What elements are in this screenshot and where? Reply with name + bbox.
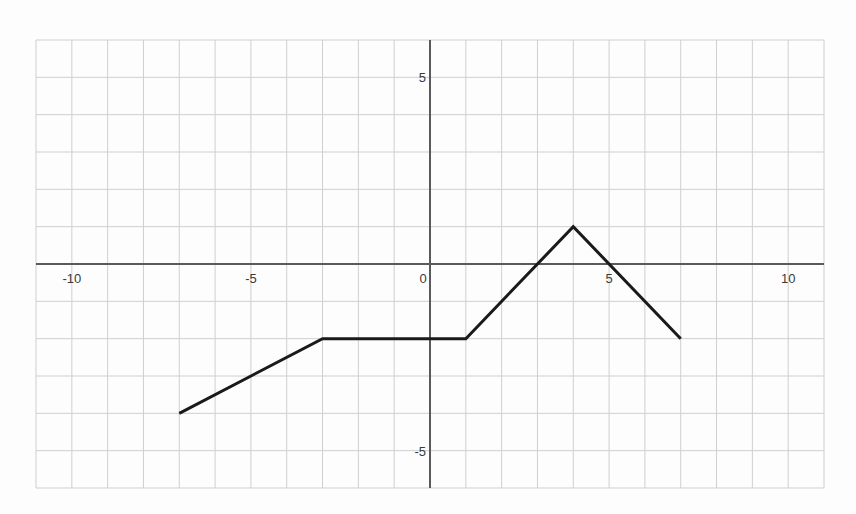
chart-container: -10-505105-5	[0, 0, 856, 514]
y-tick-label: 5	[419, 70, 426, 85]
x-tick-label: -10	[62, 271, 81, 286]
x-tick-label: 10	[781, 271, 795, 286]
axes	[36, 40, 824, 488]
x-tick-label: 5	[605, 271, 612, 286]
y-tick-label: -5	[414, 444, 426, 459]
x-tick-label: -5	[245, 271, 257, 286]
x-tick-label: 0	[419, 271, 426, 286]
coordinate-plane: -10-505105-5	[0, 0, 856, 514]
